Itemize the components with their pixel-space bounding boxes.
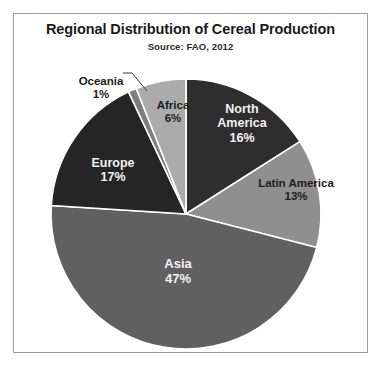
chart-frame: Regional Distribution of Cereal Producti…: [13, 13, 368, 353]
pie-slice-group: [51, 79, 321, 349]
pie-chart: [1, 1, 382, 369]
